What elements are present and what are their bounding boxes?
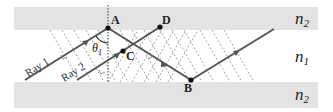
- ray-1-label: Ray 1: [23, 55, 51, 79]
- point-a-label: A: [111, 13, 120, 28]
- n1-label: n1: [295, 47, 309, 67]
- ray-2-label: Ray 2: [59, 60, 87, 84]
- point-b-label: B: [184, 81, 192, 96]
- point-a: [105, 25, 110, 30]
- point-c-label: C: [126, 49, 135, 64]
- angle-label: θ1: [92, 41, 102, 57]
- point-d-label: D: [162, 13, 171, 28]
- point-c: [120, 48, 125, 53]
- n2-bottom-label: n2: [295, 85, 309, 105]
- ray-outgoing: [191, 29, 274, 80]
- ray-reflected: [108, 28, 191, 80]
- n2-top-label: n2: [295, 9, 309, 29]
